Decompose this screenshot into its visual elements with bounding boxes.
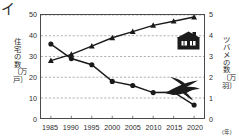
house-icon — [176, 31, 201, 50]
x-axis-unit-label: (年) — [222, 128, 232, 136]
left-tick-label: 30 — [23, 53, 37, 60]
right-tick-label: 0 — [209, 116, 223, 123]
data-point-marker — [151, 90, 156, 95]
left-tick-label: 0 — [23, 116, 37, 123]
left-axis-title: 住宅の数〔万戸〕 — [13, 38, 22, 84]
right-axis-title: ツバメの数〔万羽〕 — [222, 36, 231, 89]
data-point-marker — [48, 41, 53, 46]
data-point-marker — [130, 83, 135, 88]
right-tick-label: 5 — [209, 11, 223, 18]
x-tick-label: 2020 — [182, 124, 208, 131]
right-tick-label: 1 — [209, 95, 223, 102]
left-tick-label: 50 — [23, 11, 37, 18]
left-tick-label: 10 — [23, 95, 37, 102]
swallow-icon — [163, 76, 207, 104]
data-point-marker — [89, 62, 94, 67]
right-tick-label: 3 — [209, 53, 223, 60]
left-tick-label: 20 — [23, 74, 37, 81]
cropped-page-character: イ — [1, 2, 15, 17]
right-tick-label: 2 — [209, 74, 223, 81]
chart-figure: イ 住宅の数〔万戸〕 ツバメの数〔万羽〕 (年) 010203040500123… — [0, 0, 239, 140]
right-tick-label: 4 — [209, 32, 223, 39]
left-tick-label: 40 — [23, 32, 37, 39]
data-point-marker — [110, 79, 115, 84]
